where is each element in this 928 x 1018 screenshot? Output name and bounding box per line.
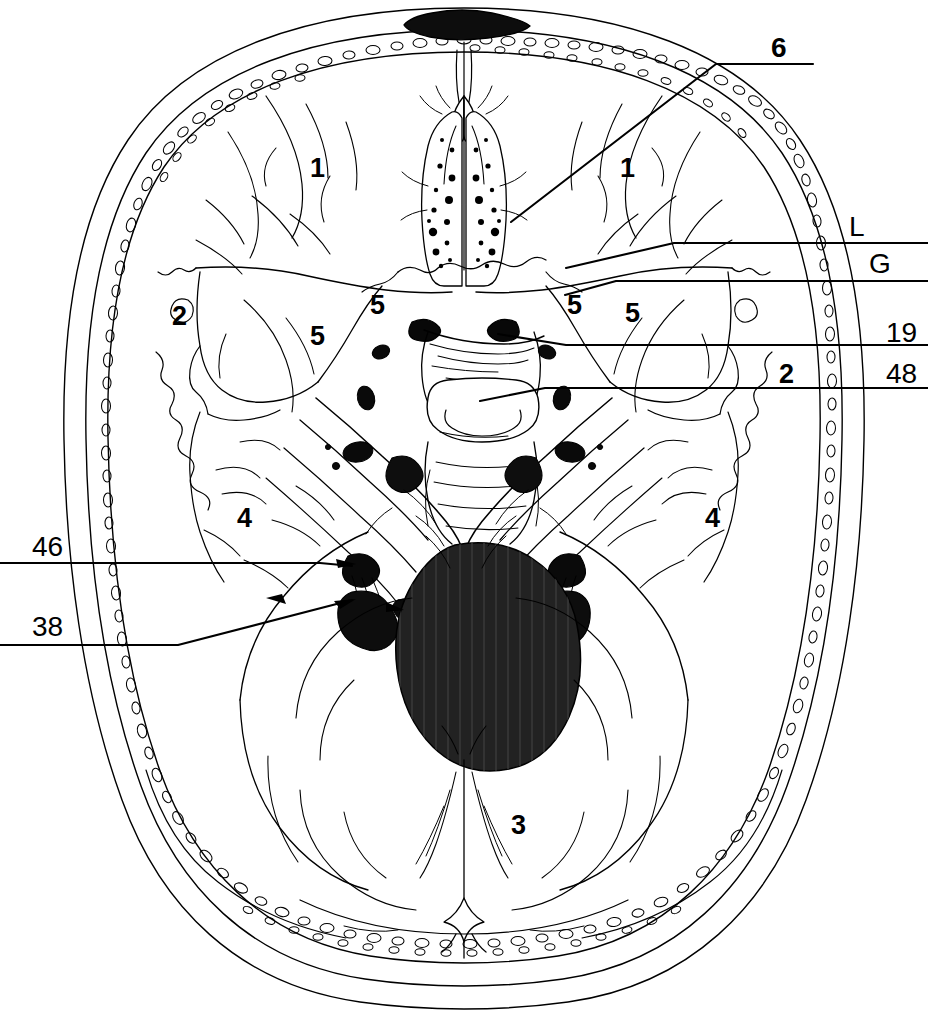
right-foramen-lacerum xyxy=(505,456,542,493)
left-lesser-wing-edge xyxy=(196,267,452,293)
right-greater-wing xyxy=(610,272,731,402)
label-calvaria-right: 2 xyxy=(779,361,794,388)
label-sphenoid-wing-right-medial: 5 xyxy=(567,292,582,319)
label-sphenoid-wing-right-lateral: 5 xyxy=(625,300,640,327)
leader-line-19 xyxy=(498,334,928,345)
figure-canvas: 1 1 2 2 3 4 4 5 5 5 5 6 L G 19 48 46 38 xyxy=(0,0,928,1018)
left-foramen-rotundum xyxy=(370,343,392,362)
callout-label-48: 48 xyxy=(886,360,917,388)
right-lesser-wing-edge xyxy=(476,267,732,293)
label-middle-fossa-right: 4 xyxy=(705,505,720,532)
label-anterior-fossa-left: 1 xyxy=(310,155,325,182)
leader-line-46 xyxy=(0,563,352,566)
clivus-left-edge xyxy=(425,442,452,544)
callout-label-19: 19 xyxy=(886,319,917,347)
chiasmatic-sulcus xyxy=(424,330,544,344)
frontal-sinus xyxy=(404,10,530,40)
left-orbital-plate-impression xyxy=(266,96,303,238)
label-greater-wing-left: 5 xyxy=(310,323,325,350)
internal-occipital-protuberance xyxy=(442,898,486,958)
left-greater-wing xyxy=(197,272,318,402)
callout-label-38: 38 xyxy=(32,613,63,641)
right-cribriform-plate xyxy=(466,112,506,286)
label-anterior-fossa-right: 1 xyxy=(620,155,635,182)
right-lambdoid-suture xyxy=(718,352,772,510)
label-posterior-fossa: 3 xyxy=(511,812,526,839)
label-lesser-wing-left-medial: 5 xyxy=(370,292,385,319)
left-lambdoid-suture xyxy=(156,352,210,510)
label-middle-fossa-left: 4 xyxy=(237,505,252,532)
leader-line-48 xyxy=(480,388,928,401)
callout-label-46: 46 xyxy=(32,533,63,561)
callout-label-6: 6 xyxy=(771,34,787,62)
skull-base-illustration xyxy=(0,0,928,1018)
right-anterior-clinoid-process xyxy=(487,319,519,341)
left-foramen-lacerum xyxy=(386,456,423,493)
left-foramen-ovale xyxy=(355,384,377,411)
callout-label-G: G xyxy=(869,250,891,278)
label-calvaria-left: 2 xyxy=(172,303,187,330)
right-coronal-suture-edge xyxy=(732,268,770,275)
leader-line-G xyxy=(565,281,928,295)
leader-line-6 xyxy=(511,64,813,222)
left-coronal-suture-edge xyxy=(158,268,196,275)
callout-label-L: L xyxy=(849,213,865,241)
left-cribriform-plate xyxy=(422,112,462,286)
